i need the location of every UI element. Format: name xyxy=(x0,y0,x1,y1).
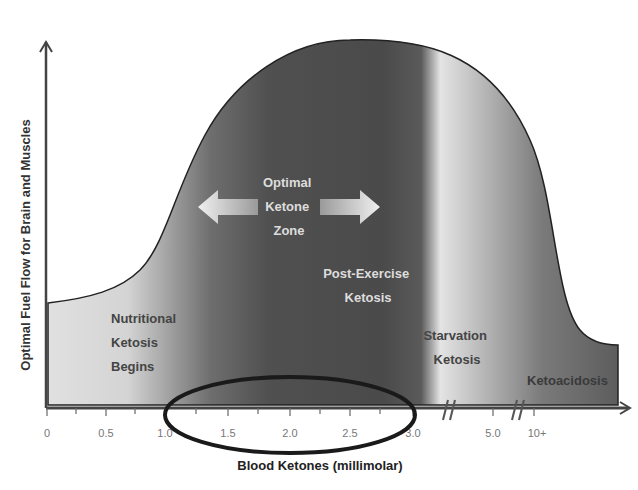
x-tick-label: 0 xyxy=(44,427,50,439)
x-axis-label: Blood Ketones (millimolar) xyxy=(237,458,402,473)
x-tick-label: 2.5 xyxy=(342,427,357,439)
x-tick-label: 10+ xyxy=(528,427,547,439)
ketoacidosis-label: Ketoacidosis xyxy=(527,373,608,388)
ketone-chart: 0 0.5 1.0 1.5 2.0 2.5 3.0 5.0 10+ Blood … xyxy=(0,0,638,490)
x-tick-label: 1.5 xyxy=(220,427,235,439)
x-tick-label: 5.0 xyxy=(485,427,500,439)
x-tick-label: 2.0 xyxy=(282,427,297,439)
x-tick-label: 0.5 xyxy=(98,427,113,439)
fuel-flow-curve xyxy=(48,40,618,405)
y-axis-label: Optimal Fuel Flow for Brain and Muscles xyxy=(18,119,33,370)
